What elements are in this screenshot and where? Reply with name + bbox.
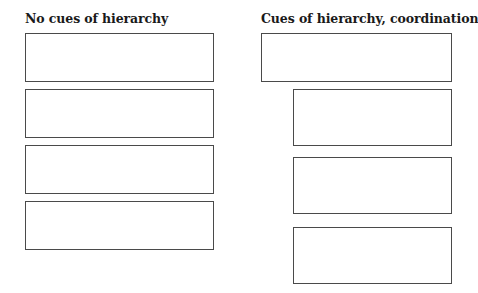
right-child-box-2 [293, 157, 452, 214]
left-box-3 [25, 145, 214, 194]
right-child-box-3 [293, 227, 452, 284]
right-panel-title: Cues of hierarchy, coordination [261, 11, 478, 26]
left-box-4 [25, 201, 214, 250]
right-child-box-1 [293, 89, 452, 146]
left-box-1 [25, 33, 214, 82]
right-parent-box [261, 33, 452, 82]
left-panel-title: No cues of hierarchy [25, 11, 168, 26]
left-box-2 [25, 89, 214, 138]
